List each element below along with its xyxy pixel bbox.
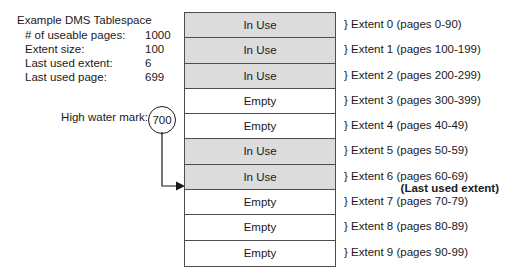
- extent-cell: Empty: [185, 89, 335, 114]
- extent-label-list: } Extent 0 (pages 0-90)} Extent 1 (pages…: [344, 12, 510, 265]
- stat-label: Extent size:: [25, 42, 84, 56]
- page-title: Example DMS Tablespace: [17, 13, 182, 28]
- tablespace-stat-row: Extent size:100: [25, 42, 182, 56]
- extent-label-row: } Extent 9 (pages 90-99): [344, 240, 510, 265]
- tablespace-stats-list: # of useable pages:1000Extent size:100La…: [17, 28, 182, 84]
- extent-cell: Empty: [185, 241, 335, 266]
- tablespace-info-block: Example DMS Tablespace # of useable page…: [17, 13, 182, 84]
- stat-label: Last used extent:: [25, 56, 113, 70]
- extent-label-row: } Extent 7 (pages 70-79): [344, 189, 510, 214]
- stat-value: 1000: [145, 28, 171, 42]
- high-water-mark-label: High water mark:: [61, 110, 148, 124]
- tablespace-stat-row: Last used page:699: [25, 70, 182, 84]
- extent-label-text: } Extent 9 (pages 90-99): [344, 245, 468, 259]
- tablespace-stat-row: # of useable pages:1000: [25, 28, 182, 42]
- extent-label-text: } Extent 8 (pages 80-89): [344, 219, 468, 233]
- extent-label-row: } Extent 4 (pages 40-49): [344, 113, 510, 138]
- extent-cell: In Use: [185, 13, 335, 38]
- extent-label-row: } Extent 8 (pages 80-89): [344, 214, 510, 239]
- leader-line-path: [162, 132, 176, 186]
- extent-label-text: } Extent 1 (pages 100-199): [344, 42, 481, 56]
- extent-cell: Empty: [185, 215, 335, 240]
- extent-label-text: } Extent 6 (pages 60-69): [344, 169, 468, 183]
- stat-label: # of useable pages:: [25, 28, 125, 42]
- stat-label: Last used page:: [25, 70, 107, 84]
- extent-label-row: } Extent 5 (pages 50-59): [344, 138, 510, 163]
- extent-label-text: } Extent 2 (pages 200-299): [344, 68, 481, 82]
- dms-tablespace-diagram: Example DMS Tablespace # of useable page…: [0, 0, 510, 271]
- stat-value: 100: [145, 42, 164, 56]
- extent-cell: Empty: [185, 190, 335, 215]
- extent-label-row: } Extent 2 (pages 200-299): [344, 63, 510, 88]
- extent-cell: In Use: [185, 38, 335, 63]
- extent-cell: In Use: [185, 64, 335, 89]
- high-water-mark-callout: High water mark: 700: [0, 104, 182, 134]
- extent-label-row: } Extent 3 (pages 300-399): [344, 88, 510, 113]
- extent-cell: Empty: [185, 114, 335, 139]
- extent-label-text: } Extent 0 (pages 0-90): [344, 17, 462, 31]
- extent-table: In UseIn UseIn UseEmptyEmptyIn UseIn Use…: [184, 12, 336, 267]
- extent-label-text: } Extent 7 (pages 70-79): [344, 194, 468, 208]
- high-water-mark-value-badge: 700: [148, 106, 176, 134]
- extent-cell: In Use: [185, 165, 335, 190]
- stat-value: 6: [145, 56, 151, 70]
- extent-label-text: } Extent 4 (pages 40-49): [344, 118, 468, 132]
- extent-cell: In Use: [185, 139, 335, 164]
- extent-label-text: } Extent 3 (pages 300-399): [344, 93, 481, 107]
- stat-value: 699: [145, 70, 164, 84]
- extent-label-text: } Extent 5 (pages 50-59): [344, 143, 468, 157]
- extent-label-row: } Extent 1 (pages 100-199): [344, 37, 510, 62]
- extent-label-row: } Extent 6 (pages 60-69)(Last used exten…: [344, 164, 510, 189]
- extent-label-row: } Extent 0 (pages 0-90): [344, 12, 510, 37]
- tablespace-stat-row: Last used extent:6: [25, 56, 182, 70]
